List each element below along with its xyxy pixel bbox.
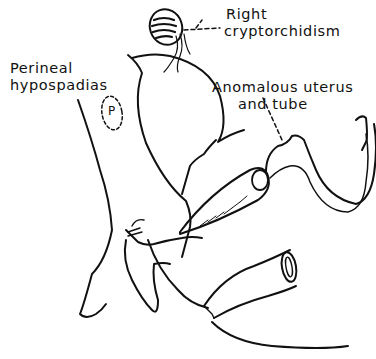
hypospadias-marker-letter: P	[108, 104, 115, 118]
diagram-drawing	[0, 0, 376, 359]
anatomical-diagram: Right cryptorchidism Perineal hypospadia…	[0, 0, 376, 359]
label-line: Perineal	[10, 60, 108, 77]
label-line: hypospadias	[10, 77, 108, 94]
dark-tube-illustration	[180, 168, 269, 234]
lower-tube-illustration	[204, 250, 348, 348]
label-anomalous-uterus: Anomalous uterus and tube	[212, 79, 353, 113]
body-outline	[78, 100, 112, 317]
label-line: Anomalous uterus	[212, 79, 353, 96]
uterus-tube-illustration	[266, 116, 376, 212]
label-line: cryptorchidism	[224, 23, 340, 40]
leader-cryptorchidism	[184, 20, 220, 30]
phallus-illustration	[125, 220, 208, 312]
label-line: Right	[224, 6, 340, 23]
testis-illustration	[145, 5, 190, 72]
label-line: and tube	[212, 96, 353, 113]
label-perineal-hypospadias: Perineal hypospadias	[10, 60, 108, 94]
label-right-cryptorchidism: Right cryptorchidism	[224, 6, 340, 40]
